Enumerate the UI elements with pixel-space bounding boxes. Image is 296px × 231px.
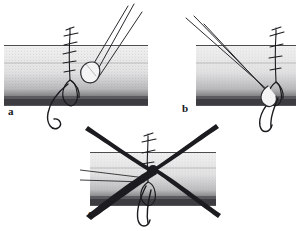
panel-a: a [0, 0, 150, 135]
panel-c-illustration [80, 120, 225, 231]
panel-label-c: c [88, 208, 93, 219]
tissue-block-a [4, 45, 148, 106]
panel-c: c [80, 120, 225, 231]
panel-b-illustration [150, 0, 296, 135]
panel-label-a: a [8, 106, 14, 117]
panel-a-illustration [0, 0, 150, 135]
suture-technique-figure: a [0, 0, 296, 231]
panel-b: b [150, 0, 296, 135]
panel-label-b: b [182, 103, 188, 114]
forceps-tip-a [81, 62, 100, 83]
